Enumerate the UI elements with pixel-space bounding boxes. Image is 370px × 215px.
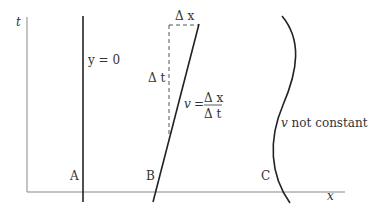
delta-t-label: Δ t: [148, 71, 165, 85]
worldline-b: [153, 24, 199, 202]
velocity-equals: =: [194, 97, 204, 111]
delta-x-label: Δ x: [175, 9, 194, 23]
x-axis-label: x: [327, 189, 334, 203]
worldline-a-annotation: y = 0: [87, 53, 120, 67]
worldline-c-annotation: v not constant: [281, 116, 368, 130]
t-axis-label: t: [16, 15, 21, 29]
spacetime-diagram: t x y = 0 A Δ x Δ t v = Δ x Δ t B v not …: [0, 0, 370, 215]
fraction-numerator: Δ x: [204, 91, 223, 105]
worldline-c-letter: C: [261, 169, 270, 183]
worldline-a-letter: A: [69, 169, 79, 183]
worldline-b-letter: B: [146, 169, 155, 183]
worldline-c: [273, 16, 295, 203]
velocity-symbol: v: [184, 97, 191, 111]
fraction-denominator: Δ t: [204, 107, 221, 121]
